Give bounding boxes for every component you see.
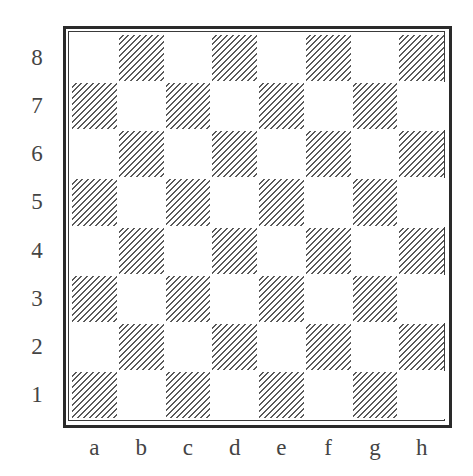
square-a1[interactable] xyxy=(72,372,117,418)
square-e1[interactable] xyxy=(259,372,304,418)
file-label-g: g xyxy=(352,436,398,459)
square-f1[interactable] xyxy=(305,371,352,419)
file-label-d: d xyxy=(212,436,258,459)
square-b8[interactable] xyxy=(119,35,164,81)
square-g3[interactable] xyxy=(353,276,398,322)
square-e6[interactable] xyxy=(258,130,305,178)
rank-label-8: 8 xyxy=(26,46,48,69)
square-f7[interactable] xyxy=(305,82,352,130)
square-b6[interactable] xyxy=(119,131,164,177)
square-e8[interactable] xyxy=(258,34,305,82)
square-g8[interactable] xyxy=(352,34,399,82)
square-h6[interactable] xyxy=(399,131,444,177)
square-g5[interactable] xyxy=(353,179,398,225)
rank-label-4: 4 xyxy=(26,239,48,262)
square-g1[interactable] xyxy=(353,372,398,418)
square-e5[interactable] xyxy=(259,179,304,225)
square-f8[interactable] xyxy=(306,35,351,81)
square-d3[interactable] xyxy=(211,275,258,323)
rank-label-2: 2 xyxy=(26,335,48,358)
square-b4[interactable] xyxy=(119,228,164,274)
square-d7[interactable] xyxy=(211,82,258,130)
square-c7[interactable] xyxy=(166,83,211,129)
square-g6[interactable] xyxy=(352,130,399,178)
square-h8[interactable] xyxy=(399,35,444,81)
square-c1[interactable] xyxy=(166,372,211,418)
square-f3[interactable] xyxy=(305,275,352,323)
square-h7[interactable] xyxy=(398,82,445,130)
square-b5[interactable] xyxy=(118,178,165,226)
file-label-h: h xyxy=(399,436,445,459)
square-b1[interactable] xyxy=(118,371,165,419)
square-a6[interactable] xyxy=(71,130,118,178)
square-g2[interactable] xyxy=(352,323,399,371)
square-b3[interactable] xyxy=(118,275,165,323)
square-a2[interactable] xyxy=(71,323,118,371)
rank-label-1: 1 xyxy=(26,383,48,406)
file-label-f: f xyxy=(305,436,351,459)
square-c4[interactable] xyxy=(165,227,212,275)
square-d1[interactable] xyxy=(211,371,258,419)
square-h2[interactable] xyxy=(399,324,444,370)
chessboard xyxy=(71,34,445,419)
square-h1[interactable] xyxy=(398,371,445,419)
square-a7[interactable] xyxy=(72,83,117,129)
square-a4[interactable] xyxy=(71,227,118,275)
square-a5[interactable] xyxy=(72,179,117,225)
square-f2[interactable] xyxy=(306,324,351,370)
file-label-c: c xyxy=(165,436,211,459)
square-c6[interactable] xyxy=(165,130,212,178)
rank-label-3: 3 xyxy=(26,287,48,310)
square-c5[interactable] xyxy=(166,179,211,225)
square-a8[interactable] xyxy=(71,34,118,82)
square-h4[interactable] xyxy=(399,228,444,274)
rank-label-5: 5 xyxy=(26,190,48,213)
square-f4[interactable] xyxy=(306,228,351,274)
square-b2[interactable] xyxy=(119,324,164,370)
square-d5[interactable] xyxy=(211,178,258,226)
square-c2[interactable] xyxy=(165,323,212,371)
square-h3[interactable] xyxy=(398,275,445,323)
rank-label-7: 7 xyxy=(26,94,48,117)
square-e3[interactable] xyxy=(259,276,304,322)
square-h5[interactable] xyxy=(398,178,445,226)
square-f5[interactable] xyxy=(305,178,352,226)
square-e4[interactable] xyxy=(258,227,305,275)
square-g4[interactable] xyxy=(352,227,399,275)
square-a3[interactable] xyxy=(72,276,117,322)
square-d8[interactable] xyxy=(212,35,257,81)
square-d4[interactable] xyxy=(212,228,257,274)
rank-label-6: 6 xyxy=(26,142,48,165)
square-e7[interactable] xyxy=(259,83,304,129)
square-d2[interactable] xyxy=(212,324,257,370)
file-label-b: b xyxy=(118,436,164,459)
file-label-a: a xyxy=(71,436,117,459)
square-c3[interactable] xyxy=(166,276,211,322)
file-label-e: e xyxy=(258,436,304,459)
square-b7[interactable] xyxy=(118,82,165,130)
square-e2[interactable] xyxy=(258,323,305,371)
square-g7[interactable] xyxy=(353,83,398,129)
square-c8[interactable] xyxy=(165,34,212,82)
square-d6[interactable] xyxy=(212,131,257,177)
square-f6[interactable] xyxy=(306,131,351,177)
